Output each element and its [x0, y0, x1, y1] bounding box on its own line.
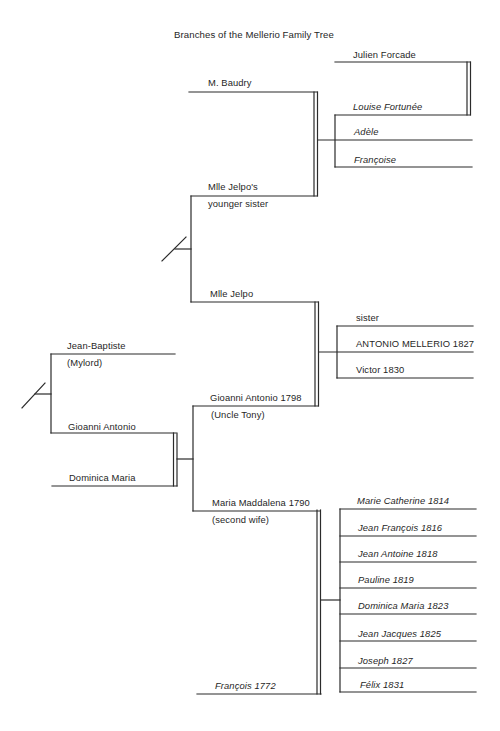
francois-children-group: Marie Catherine 1814 Jean François 1816 … [340, 495, 476, 692]
person-m-baudry: M. Baudry [208, 77, 252, 88]
person-adele: Adèle [353, 126, 378, 137]
person-antonio-mellerio-1827: ANTONIO MELLERIO 1827 [356, 338, 474, 349]
person-julien-forcade: Julien Forcade [353, 49, 416, 60]
person-francoise: Françoise [354, 154, 396, 165]
person-felix-1831: Félix 1831 [360, 679, 404, 690]
person-marie-catherine-1814: Marie Catherine 1814 [357, 495, 449, 506]
person-francois-1772: François 1772 [215, 680, 276, 691]
person-note: (second wife) [212, 514, 269, 525]
diagram-title: Branches of the Mellerio Family Tree [174, 29, 334, 40]
person-joseph-1827: Joseph 1827 [357, 655, 413, 666]
person-note: (Uncle Tony) [211, 409, 265, 420]
person-pauline-1819: Pauline 1819 [358, 574, 415, 585]
person-jean-baptiste: Jean-Baptiste [67, 340, 126, 351]
baudry-children-group: Julien Forcade Louise Fortunée Adèle Fra… [318, 49, 472, 167]
founders-group: Jean-Baptiste (Mylord) Gioanni Antonio D… [22, 340, 193, 486]
person-louise-fortunee: Louise Fortunée [353, 101, 422, 112]
unknown-parents-slash [22, 383, 45, 408]
person-note: (Mylord) [67, 357, 102, 368]
person-mlle-jelpo: Mlle Jelpo [210, 288, 253, 299]
family-tree-diagram: Branches of the Mellerio Family Tree Jul… [0, 0, 500, 731]
uncle-tony-children-group: sister ANTONIO MELLERIO 1827 Victor 1830 [319, 312, 474, 378]
person-jean-jacques-1825: Jean Jacques 1825 [357, 628, 442, 639]
person-jean-antoine-1818: Jean Antoine 1818 [357, 548, 438, 559]
person-maria-maddalena-1790: Maria Maddalena 1790 [212, 497, 310, 508]
person-gioanni-antonio: Gioanni Antonio [68, 421, 136, 432]
person-mlle-jelpos-sister: Mlle Jelpo's [208, 181, 258, 192]
baudry-couple-group: M. Baudry Mlle Jelpo's younger sister [189, 77, 318, 209]
person-gioanni-antonio-1798: Gioanni Antonio 1798 [210, 392, 302, 403]
person-sister: sister [356, 312, 379, 323]
person-dominica-maria: Dominica Maria [69, 472, 136, 483]
jelpo-sisters-group: Mlle Jelpo [162, 196, 318, 302]
person-victor-1830: Victor 1830 [356, 364, 404, 375]
person-dominica-maria-1823: Dominica Maria 1823 [358, 600, 449, 611]
uncle-tony-couple-group: Gioanni Antonio 1798 (Uncle Tony) [193, 302, 319, 420]
person-jean-francois-1816: Jean François 1816 [357, 522, 443, 533]
francois-couple-group: Maria Maddalena 1790 (second wife) Franç… [193, 497, 340, 694]
person-note: younger sister [208, 198, 268, 209]
